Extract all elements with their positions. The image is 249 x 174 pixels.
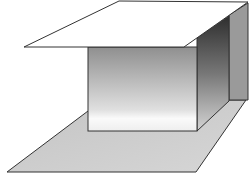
box-front-face — [88, 47, 197, 131]
diagram-canvas — [0, 0, 249, 174]
back-wall — [229, 3, 248, 100]
